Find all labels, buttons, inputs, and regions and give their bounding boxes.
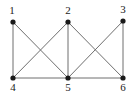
- node-1: [10, 19, 15, 24]
- node-3: [120, 18, 125, 23]
- graph-diagram: 123456: [0, 0, 130, 93]
- node-label-4: 4: [10, 81, 16, 93]
- node-5: [65, 75, 70, 80]
- node-label-2: 2: [65, 4, 71, 16]
- node-label-1: 1: [9, 4, 15, 16]
- node-2: [65, 19, 70, 24]
- node-label-6: 6: [120, 81, 126, 93]
- node-4: [10, 75, 15, 80]
- node-label-5: 5: [65, 81, 71, 93]
- edges-layer: [13, 21, 123, 78]
- node-label-3: 3: [120, 3, 126, 15]
- node-6: [120, 75, 125, 80]
